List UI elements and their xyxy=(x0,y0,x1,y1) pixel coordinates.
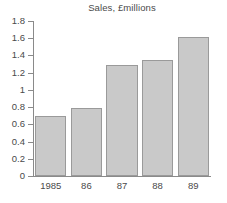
x-axis-tick-label: 86 xyxy=(69,180,105,191)
y-axis-tick-label: 0.6 xyxy=(0,119,25,129)
y-axis-tick-label: 0.4 xyxy=(0,137,25,147)
bar xyxy=(178,37,209,176)
y-axis-tick-label: 1 xyxy=(0,85,25,95)
bar xyxy=(35,116,66,176)
x-axis-tick-label: 1985 xyxy=(33,180,69,191)
x-axis-tick-label: 88 xyxy=(140,180,176,191)
y-axis-tick-label: 1.8 xyxy=(0,16,25,26)
y-axis-tick-label: 0.8 xyxy=(0,102,25,112)
y-axis-tick-label: 1.6 xyxy=(0,33,25,43)
bar-chart: Sales, £millions 00.20.40.60.811.21.41.6… xyxy=(0,0,227,203)
y-axis-tick-label: 1.2 xyxy=(0,68,25,78)
bar xyxy=(142,60,173,176)
x-axis-line xyxy=(33,176,211,177)
bar xyxy=(106,65,137,176)
x-axis-tick-label: 89 xyxy=(175,180,211,191)
x-axis-tick-label: 87 xyxy=(104,180,140,191)
y-axis-tick-label: 0 xyxy=(0,171,25,181)
y-axis-tick-label: 1.4 xyxy=(0,50,25,60)
y-axis-tick xyxy=(28,176,33,177)
chart-title: Sales, £millions xyxy=(33,2,211,14)
y-axis-tick-label: 0.2 xyxy=(0,154,25,164)
bar xyxy=(71,108,102,176)
plot-area xyxy=(33,21,211,176)
